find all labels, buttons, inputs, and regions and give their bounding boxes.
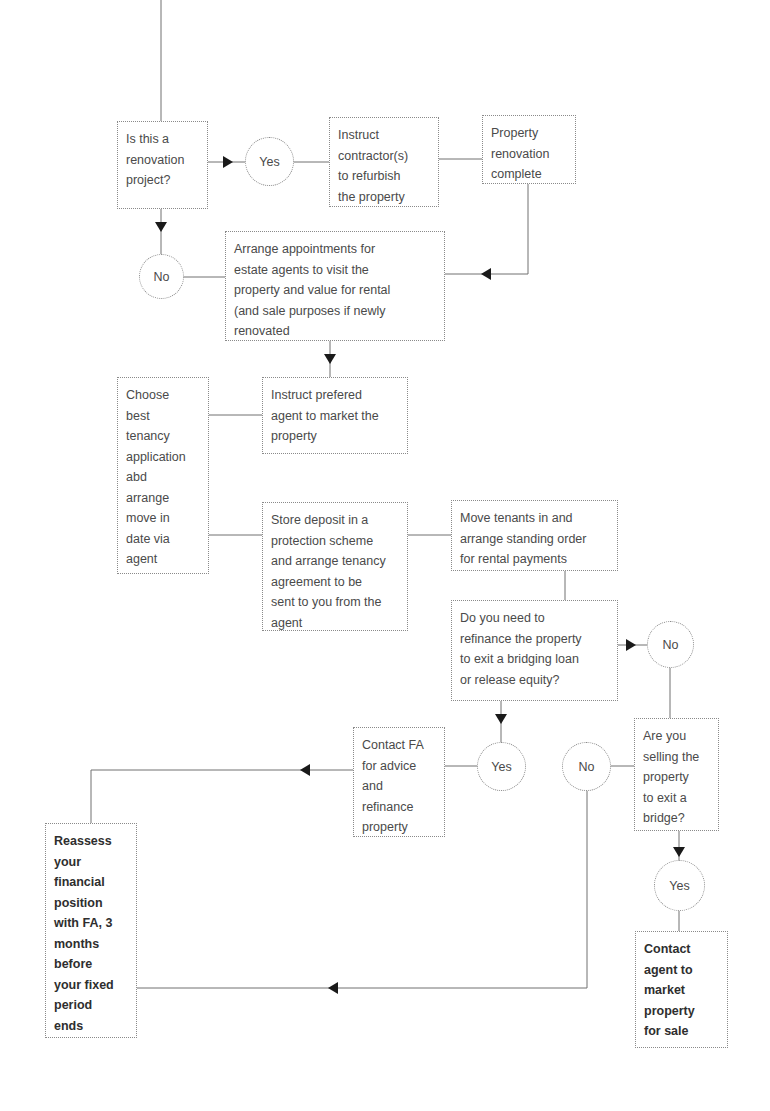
instruct-agent-text: Instruct prefered agent to market the pr… bbox=[271, 385, 399, 447]
move-tenants-text: Move tenants in and arrange standing ord… bbox=[460, 508, 609, 570]
contact-fa-text: Contact FA for advice and refinance prop… bbox=[362, 735, 436, 838]
yes-selling-label: Yes bbox=[669, 879, 689, 893]
instruct-agent-box: Instruct prefered agent to market the pr… bbox=[262, 377, 408, 454]
renovation-question-text: Is this a renovation project? bbox=[126, 129, 199, 191]
contact-agent-sale-text: Contact agent to market property for sal… bbox=[644, 939, 719, 1042]
yes-refinance-label: Yes bbox=[491, 760, 511, 774]
yes-selling-circle: Yes bbox=[654, 860, 705, 911]
reassess-position-box: Reassess your financial position with FA… bbox=[45, 823, 137, 1038]
no-refinance-label: No bbox=[663, 638, 679, 652]
no-selling-circle: No bbox=[562, 742, 611, 791]
contact-fa-box: Contact FA for advice and refinance prop… bbox=[353, 727, 445, 837]
renovation-complete-text: Property renovation complete bbox=[491, 123, 567, 185]
reassess-position-text: Reassess your financial position with FA… bbox=[54, 831, 128, 1036]
no-renovation-label: No bbox=[154, 270, 170, 284]
no-selling-label: No bbox=[579, 760, 595, 774]
store-deposit-box: Store deposit in a protection scheme and… bbox=[262, 502, 408, 631]
selling-question-text: Are you selling the property to exit a b… bbox=[643, 726, 710, 829]
no-renovation-circle: No bbox=[139, 254, 184, 299]
contact-agent-sale-box: Contact agent to market property for sal… bbox=[635, 931, 728, 1048]
arrange-appointments-box: Arrange appointments for estate agents t… bbox=[225, 231, 445, 341]
renovation-question-box: Is this a renovation project? bbox=[117, 121, 208, 209]
renovation-complete-box: Property renovation complete bbox=[482, 115, 576, 184]
move-tenants-box: Move tenants in and arrange standing ord… bbox=[451, 500, 618, 571]
no-refinance-circle: No bbox=[647, 621, 694, 668]
refinance-question-text: Do you need to refinance the property to… bbox=[460, 608, 609, 690]
instruct-contractors-text: Instruct contractor(s) to refurbish the … bbox=[338, 125, 430, 207]
choose-application-box: Choose best tenancy application abd arra… bbox=[117, 377, 209, 574]
choose-application-text: Choose best tenancy application abd arra… bbox=[126, 385, 200, 570]
selling-question-box: Are you selling the property to exit a b… bbox=[634, 718, 719, 831]
store-deposit-text: Store deposit in a protection scheme and… bbox=[271, 510, 399, 633]
yes-renovation-circle: Yes bbox=[245, 137, 294, 186]
arrange-appointments-text: Arrange appointments for estate agents t… bbox=[234, 239, 436, 342]
refinance-question-box: Do you need to refinance the property to… bbox=[451, 600, 618, 701]
yes-refinance-circle: Yes bbox=[477, 742, 526, 791]
instruct-contractors-box: Instruct contractor(s) to refurbish the … bbox=[329, 117, 439, 207]
yes-renovation-label: Yes bbox=[259, 155, 279, 169]
